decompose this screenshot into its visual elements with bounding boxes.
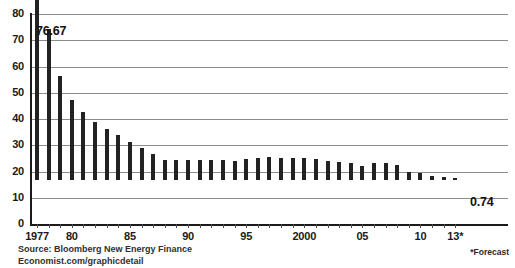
x-tick (246, 224, 247, 228)
bar (279, 158, 283, 180)
forecast-footnote: *Forecast (470, 247, 509, 257)
x-tick (362, 224, 363, 228)
bar (407, 172, 411, 180)
source-line-economist: Economist.com/graphicdetail (18, 256, 318, 268)
bar (442, 177, 446, 180)
y-tick-label-80: 80 (12, 8, 24, 19)
x-tick (374, 224, 375, 228)
x-tick (351, 224, 352, 228)
bar (430, 176, 434, 180)
x-tick (235, 224, 236, 228)
x-tick (444, 224, 445, 228)
x-tick (188, 224, 189, 228)
x-tick-label-90: 90 (182, 230, 194, 242)
x-tick (72, 224, 73, 228)
bar (163, 160, 167, 180)
bar (221, 160, 225, 180)
first-bar-value-label: 76.67 (36, 25, 66, 38)
x-tick (293, 224, 294, 228)
bar (337, 162, 341, 180)
x-tick (165, 224, 166, 228)
bar (453, 178, 457, 180)
x-tick (49, 224, 50, 228)
bar (93, 122, 97, 180)
x-tick-label-2000: 2000 (292, 230, 316, 242)
bar (58, 76, 62, 180)
x-tick (37, 224, 38, 228)
last-bar-value-label: 0.74 (470, 196, 494, 209)
bar (116, 135, 120, 180)
bar (70, 100, 74, 180)
bar (395, 165, 399, 180)
x-tick (409, 224, 410, 228)
x-tick (176, 224, 177, 228)
bar (267, 157, 271, 180)
bar (151, 154, 155, 180)
bar (244, 159, 248, 180)
x-tick-label-85: 85 (124, 230, 136, 242)
y-tick-label-50: 50 (12, 87, 24, 98)
x-tick-label-05: 05 (356, 230, 368, 242)
x-tick (107, 224, 108, 228)
y-tick-label-40: 40 (12, 113, 24, 124)
y-tick-label-30: 30 (12, 139, 24, 150)
source-line-bloomberg: Source: Bloomberg New Energy Finance (18, 244, 318, 256)
x-tick (269, 224, 270, 228)
bar (47, 29, 51, 180)
bar (233, 161, 237, 180)
bar (314, 159, 318, 180)
x-tick (60, 224, 61, 228)
x-tick-label-1977: 1977 (25, 230, 49, 242)
x-tick (432, 224, 433, 228)
bar (372, 163, 376, 180)
x-tick-label-95: 95 (240, 230, 252, 242)
bar (186, 160, 190, 180)
bar (174, 160, 178, 180)
bar (256, 158, 260, 180)
x-tick (153, 224, 154, 228)
x-tick (211, 224, 212, 228)
x-tick (316, 224, 317, 228)
x-tick-label-80: 80 (66, 230, 78, 242)
bars-layer (30, 0, 515, 224)
x-tick (455, 224, 456, 228)
bar (81, 112, 85, 180)
y-tick-label-0: 0 (18, 218, 24, 229)
y-tick-label-10: 10 (12, 192, 24, 203)
bar (209, 160, 213, 180)
x-tick-label-13: 13* (447, 230, 463, 242)
x-tick (130, 224, 131, 228)
x-tick (223, 224, 224, 228)
x-tick (328, 224, 329, 228)
bar (360, 166, 364, 180)
x-tick-label-10: 10 (415, 230, 427, 242)
x-tick (200, 224, 201, 228)
x-tick (420, 224, 421, 228)
bar (302, 158, 306, 180)
x-tick (304, 224, 305, 228)
bar (105, 129, 109, 180)
x-tick (281, 224, 282, 228)
x-tick (142, 224, 143, 228)
y-tick-label-60: 60 (12, 61, 24, 72)
x-tick (397, 224, 398, 228)
x-tick (258, 224, 259, 228)
bar (140, 148, 144, 180)
x-tick (95, 224, 96, 228)
bar (349, 163, 353, 180)
bar (326, 161, 330, 180)
source-block: Source: Bloomberg New Energy Finance Eco… (18, 244, 318, 267)
bar (418, 173, 422, 180)
y-axis-labels: 01020304050607080 (0, 0, 28, 268)
bar (291, 158, 295, 180)
x-tick (386, 224, 387, 228)
x-tick (118, 224, 119, 228)
y-tick-label-70: 70 (12, 34, 24, 45)
bar (198, 160, 202, 180)
bar (384, 163, 388, 180)
bar-chart-figure: 01020304050607080 1977808590952000051013… (0, 0, 515, 268)
x-tick (339, 224, 340, 228)
bar (128, 142, 132, 180)
x-tick (83, 224, 84, 228)
y-tick-label-20: 20 (12, 166, 24, 177)
